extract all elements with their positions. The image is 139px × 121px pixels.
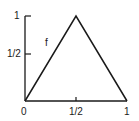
function-f-line (25, 16, 127, 101)
y-tick-label-half: 1/2 (7, 48, 21, 59)
x-tick-label-1: 1 (124, 106, 130, 117)
tent-function-chart: 1 1/2 0 1/2 1 f (0, 0, 139, 121)
x-tick-label-0: 0 (21, 106, 27, 117)
function-label: f (45, 37, 48, 48)
y-tick-label-1: 1 (14, 10, 20, 21)
x-tick-label-half: 1/2 (69, 106, 83, 117)
